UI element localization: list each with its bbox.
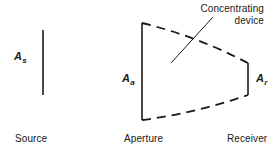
aperture-area-label: Aa [122, 72, 135, 85]
source-caption: Source [15, 133, 47, 145]
aperture-area-subscript: a [130, 78, 135, 87]
concentrator-bottom-wall [142, 95, 248, 120]
source-area-label: As [14, 50, 27, 63]
receiver-area-subscript: r [264, 78, 267, 87]
receiver-caption: Receiver [227, 133, 267, 145]
annotation-line-2: device [176, 15, 264, 27]
receiver-area-label: Ar [256, 72, 267, 85]
annotation-line-1: Concentrating [176, 3, 264, 15]
concentrator-top-wall [142, 23, 248, 63]
source-area-symbol: A [14, 50, 22, 62]
receiver-area-symbol: A [256, 72, 264, 84]
source-area-subscript: s [22, 56, 27, 65]
aperture-caption: Aperture [124, 133, 163, 145]
concentrating-device-annotation: Concentrating device [176, 3, 264, 27]
figure-container: As Aa Ar Concentrating device Source Ape… [0, 0, 276, 155]
aperture-area-symbol: A [122, 72, 130, 84]
